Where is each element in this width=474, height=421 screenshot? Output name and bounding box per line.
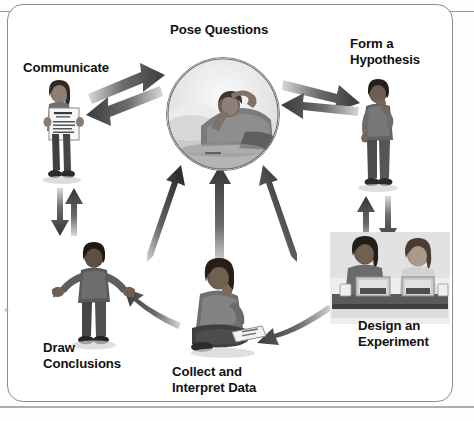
label-communicate: Communicate [23, 60, 109, 76]
scientific-method-figure: ✶ [0, 0, 474, 421]
label-draw-conclusions: Draw Conclusions [43, 340, 121, 371]
label-collect-and-interpret-data: Collect and Interpret Data [172, 364, 256, 395]
node-design-an-experiment-photo[interactable] [330, 232, 450, 324]
node-communicate-photo[interactable] [35, 78, 97, 186]
node-pose-questions-photo[interactable] [166, 57, 280, 171]
corner-tick-icon: ✶ [3, 308, 9, 314]
page-rule-bottom [0, 406, 474, 408]
label-form-a-hypothesis: Form a Hypothesis [350, 36, 420, 67]
node-collect-and-interpret-data-photo[interactable] [176, 252, 270, 364]
label-pose-questions: Pose Questions [170, 22, 268, 38]
node-draw-conclusions-photo[interactable] [48, 240, 138, 350]
node-form-a-hypothesis-photo[interactable] [350, 78, 406, 194]
label-design-an-experiment: Design an Experiment [358, 318, 429, 349]
